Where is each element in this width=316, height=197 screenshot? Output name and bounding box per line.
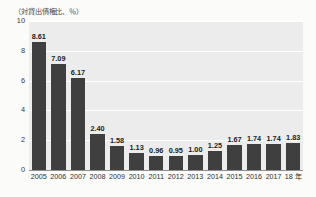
bar <box>247 144 261 170</box>
x-axis-tick-label: 2013 <box>186 172 206 182</box>
bar-value-label: 1.25 <box>208 142 222 150</box>
bar-value-label: 1.67 <box>227 136 241 144</box>
x-axis-tick-label: 2010 <box>127 172 147 182</box>
y-axis-tick-label: 0 <box>21 166 25 174</box>
bar <box>110 146 124 170</box>
bar-value-label: 0.95 <box>169 147 183 155</box>
bar <box>188 155 202 170</box>
y-axis-tick-label: 8 <box>21 47 25 55</box>
x-axis-tick-label: 2007 <box>68 172 88 182</box>
bar-value-label: 8.61 <box>32 33 46 41</box>
bar-group: 2.40 <box>90 21 104 170</box>
x-axis-tick-label: 2005 <box>29 172 49 182</box>
y-axis: 0246810 <box>0 0 29 197</box>
x-axis-tick-label: 2011 <box>146 172 166 182</box>
x-axis: 2005200620072008200920102011201220132014… <box>29 172 303 186</box>
bar-group: 1.83 <box>286 21 300 170</box>
x-axis-tick-label: 18 年 <box>283 172 303 182</box>
bar-value-label: 2.40 <box>90 125 104 133</box>
bar-group: 1.13 <box>129 21 143 170</box>
x-axis-tick-label: 2015 <box>225 172 245 182</box>
bar <box>71 78 85 170</box>
x-axis-tick-label: 2006 <box>49 172 69 182</box>
bar-value-label: 1.83 <box>286 134 300 142</box>
bar-group: 0.96 <box>149 21 163 170</box>
x-axis-tick-label: 2009 <box>107 172 127 182</box>
bar-value-label: 1.74 <box>247 135 261 143</box>
bar <box>32 42 46 170</box>
bar <box>149 156 163 170</box>
bar-group: 1.25 <box>208 21 222 170</box>
bar <box>266 144 280 170</box>
x-axis-tick-label: 2014 <box>205 172 225 182</box>
bar-value-label: 1.13 <box>130 144 144 152</box>
bar-value-label: 1.74 <box>267 135 281 143</box>
bar-group: 1.74 <box>266 21 280 170</box>
bar-value-label: 0.96 <box>149 147 163 155</box>
x-axis-tick-label: 2016 <box>244 172 264 182</box>
bars-layer: 8.617.096.172.401.581.130.960.951.001.25… <box>29 21 303 170</box>
y-axis-tick-label: 6 <box>21 77 25 85</box>
x-axis-line <box>29 170 303 171</box>
bar-group: 1.67 <box>227 21 241 170</box>
bar-group: 1.58 <box>110 21 124 170</box>
bar <box>169 156 183 170</box>
bar-group: 1.74 <box>247 21 261 170</box>
bar <box>51 64 65 170</box>
y-axis-tick-label: 10 <box>17 17 25 25</box>
bar <box>90 134 104 170</box>
bar-value-label: 1.58 <box>110 137 124 145</box>
bar-group: 1.00 <box>188 21 202 170</box>
chart-figure: （対貸出債権比、％） 0246810 8.617.096.172.401.581… <box>0 0 316 197</box>
x-axis-tick-label: 2017 <box>264 172 284 182</box>
x-axis-tick-label: 2008 <box>88 172 108 182</box>
bar-group: 8.61 <box>32 21 46 170</box>
y-axis-tick-label: 4 <box>21 106 25 114</box>
y-axis-tick-label: 2 <box>21 136 25 144</box>
bar-value-label: 1.00 <box>188 146 202 154</box>
bar-value-label: 6.17 <box>71 69 85 77</box>
bar <box>286 143 300 170</box>
bar-group: 6.17 <box>71 21 85 170</box>
bar <box>208 151 222 170</box>
bar-group: 0.95 <box>169 21 183 170</box>
bar-value-label: 7.09 <box>51 55 65 63</box>
bar <box>227 145 241 170</box>
bar-group: 7.09 <box>51 21 65 170</box>
bar <box>129 153 143 170</box>
x-axis-tick-label: 2012 <box>166 172 186 182</box>
